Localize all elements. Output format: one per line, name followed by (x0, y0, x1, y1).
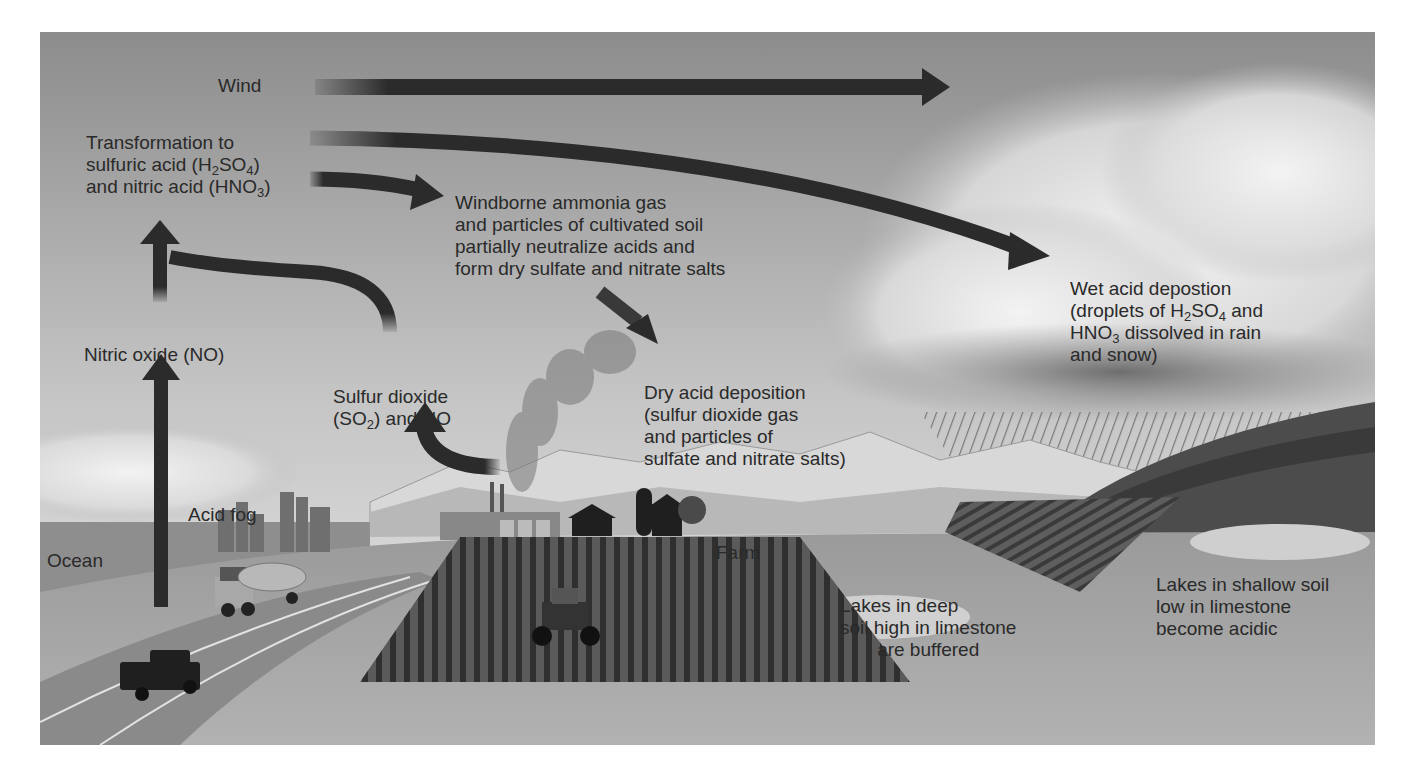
dry-deposition-label: Dry acid deposition (sulfur dioxide gas … (644, 382, 846, 470)
transformation-label: Transformation to sulfuric acid (H2SO4) … (86, 132, 271, 198)
acidic-lake (1190, 524, 1370, 560)
sulfur-dioxide-label: Sulfur dioxide (SO2) and NO (333, 386, 451, 430)
lakes-shallow-label: Lakes in shallow soil low in limestone b… (1156, 574, 1329, 640)
wind-label: Wind (218, 75, 261, 97)
ocean-label: Ocean (47, 550, 103, 572)
farm-label: Farm (716, 542, 760, 564)
windborne-ammonia-label: Windborne ammonia gas and particles of c… (455, 192, 725, 280)
nitric-oxide-label: Nitric oxide (NO) (84, 344, 224, 366)
acid-deposition-diagram: Wind Transformation to sulfuric acid (H2… (40, 32, 1375, 745)
wet-deposition-label: Wet acid depostion (droplets of H2SO4 an… (1070, 278, 1263, 366)
acid-fog-label: Acid fog (188, 504, 257, 526)
lakes-deep-label: Lakes in deep soil high in limestone are… (840, 595, 1016, 661)
